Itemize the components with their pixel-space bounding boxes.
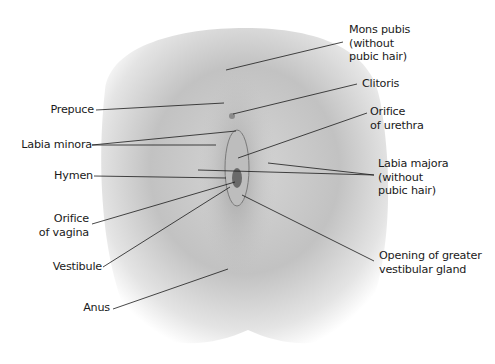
label-hymen: Hymen — [54, 169, 93, 183]
label-mons-pubis: Mons pubis (without pubic hair) — [349, 23, 410, 64]
label-clitoris: Clitoris — [362, 77, 399, 91]
label-labia-majora: Labia majora (without pubic hair) — [378, 157, 448, 198]
label-opening-greater-vestibular-gland: Opening of greater vestibular gland — [379, 249, 482, 276]
label-orifice-of-vagina: Orifice of vagina — [39, 212, 89, 239]
label-vestibule: Vestibule — [53, 260, 102, 274]
label-labia-minora: Labia minora — [21, 138, 92, 152]
label-orifice-of-urethra: Orifice of urethra — [370, 105, 424, 132]
anatomy-diagram: Prepuce Labia minora Hymen Orifice of va… — [0, 0, 495, 364]
label-anus: Anus — [83, 301, 110, 315]
label-prepuce: Prepuce — [50, 103, 94, 117]
